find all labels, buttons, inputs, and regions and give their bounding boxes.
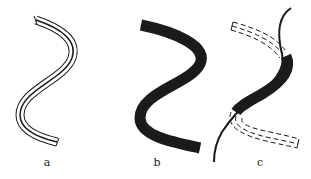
panel-c-label: c xyxy=(257,156,263,169)
panel-c: c xyxy=(214,8,299,169)
panel-a-label: a xyxy=(44,156,51,169)
diagram-canvas: a b c xyxy=(0,0,311,179)
panel-c-dashed-band-lower-outer xyxy=(230,112,297,148)
panel-c-hatched-segment-fill xyxy=(236,56,288,112)
panel-b-label: b xyxy=(153,156,160,169)
panel-b: b xyxy=(140,25,201,169)
panel-a: a xyxy=(20,16,73,169)
panel-c-dashed-band-lower-mid xyxy=(236,116,298,144)
panel-a-band-fill xyxy=(20,20,73,142)
